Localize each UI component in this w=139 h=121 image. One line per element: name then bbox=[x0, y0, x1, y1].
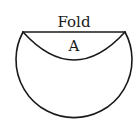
region-a-label: A bbox=[68, 37, 80, 55]
folded-circle-diagram: Fold A bbox=[0, 0, 139, 121]
fold-label: Fold bbox=[57, 13, 90, 31]
